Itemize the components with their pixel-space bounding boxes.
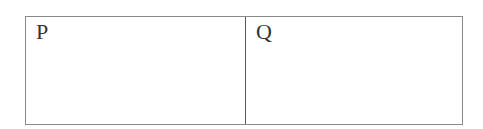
cell-q: Q	[246, 17, 462, 124]
cell-p: P	[26, 17, 246, 124]
two-cell-box: P Q	[25, 16, 463, 125]
cell-q-label: Q	[256, 21, 272, 43]
cell-p-label: P	[36, 21, 48, 43]
